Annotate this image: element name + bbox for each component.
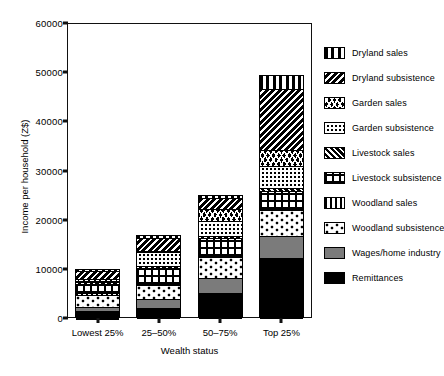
bar-segment [137, 299, 180, 307]
legend-swatch-icon [324, 247, 345, 259]
legend-item-label: Garden subsistence [352, 123, 434, 133]
legend-item-label: Woodland subsistence [352, 223, 444, 233]
bar-segment [76, 284, 119, 294]
legend-item-label: Livestock subsistence [352, 173, 442, 183]
bar-segment [137, 268, 180, 284]
legend-swatch-icon [324, 97, 345, 109]
bar-segment [260, 89, 303, 150]
x-axis-tick-label: 50–75% [203, 327, 238, 338]
x-axis-tick-mark [96, 318, 99, 323]
legend-item-label: Livestock sales [352, 148, 415, 158]
legend-swatch-icon [324, 147, 345, 159]
bar-segment [199, 293, 242, 319]
legend-swatch-icon [324, 172, 345, 184]
legend-item[interactable]: Livestock subsistence [324, 165, 443, 190]
legend-item[interactable]: Dryland subsistence [324, 65, 443, 90]
legend-item[interactable]: Dryland sales [324, 40, 443, 65]
bar-2 [136, 235, 181, 318]
bar-1 [75, 269, 120, 318]
y-axis-tick-label: 50000 [36, 67, 63, 78]
legend-swatch-icon [324, 72, 345, 84]
legend-item-label: Dryland subsistence [352, 73, 435, 83]
bar-4 [259, 75, 304, 318]
y-axis-tick-label: 20000 [36, 214, 63, 225]
x-axis-tick-mark [280, 318, 283, 323]
bar-segment [260, 191, 303, 209]
bar-segment [76, 295, 119, 308]
bars-layer [67, 23, 312, 318]
x-axis-tick-label: Lowest 25% [72, 327, 124, 338]
chart-legend: Dryland salesDryland subsistenceGarden s… [324, 40, 443, 290]
bar-segment [137, 252, 180, 266]
legend-item[interactable]: Woodland sales [324, 190, 443, 215]
y-axis-title: Income per household (Z$) [19, 77, 30, 277]
legend-item[interactable]: Garden sales [324, 90, 443, 115]
legend-item-label: Garden sales [352, 98, 407, 108]
legend-item[interactable]: Wages/home industry [324, 240, 443, 265]
bar-segment [199, 198, 242, 209]
bar-segment [76, 271, 119, 279]
bar-segment [199, 278, 242, 293]
x-axis-tick-mark [219, 318, 222, 323]
y-axis-tick-label: 60000 [36, 18, 63, 29]
legend-item-label: Woodland sales [352, 198, 417, 208]
y-axis: 0100002000030000400005000060000 [0, 0, 63, 376]
bar-segment [137, 238, 180, 251]
legend-swatch-icon [324, 272, 345, 284]
x-axis-tick-mark [157, 318, 160, 323]
legend-swatch-icon [324, 122, 345, 134]
x-axis-tick-label: Top 25% [263, 327, 300, 338]
x-axis-title: Wealth status [67, 345, 312, 356]
legend-item[interactable]: Livestock sales [324, 140, 443, 165]
y-axis-tick-label: 10000 [36, 263, 63, 274]
y-axis-tick-label: 40000 [36, 116, 63, 127]
legend-swatch-icon [324, 47, 345, 59]
bar-segment [260, 166, 303, 188]
legend-item-label: Dryland sales [352, 48, 408, 58]
bar-segment [199, 257, 242, 278]
legend-item[interactable]: Remittances [324, 265, 443, 290]
bar-segment [260, 76, 303, 90]
bar-3 [198, 195, 243, 318]
legend-item-label: Wages/home industry [352, 248, 441, 258]
x-axis-tick-label: 25–50% [141, 327, 176, 338]
legend-item-label: Remittances [352, 273, 403, 283]
bar-segment [260, 210, 303, 236]
legend-swatch-icon [324, 197, 345, 209]
legend-item[interactable]: Garden subsistence [324, 115, 443, 140]
legend-swatch-icon [324, 222, 345, 234]
bar-segment [199, 209, 242, 221]
bar-segment [260, 236, 303, 259]
bar-segment [199, 238, 242, 255]
y-axis-tick-label: 30000 [36, 165, 63, 176]
bar-segment [260, 150, 303, 166]
bar-segment [199, 221, 242, 237]
bar-segment [137, 285, 180, 299]
bar-segment [260, 258, 303, 318]
legend-item[interactable]: Woodland subsistence [324, 215, 443, 240]
